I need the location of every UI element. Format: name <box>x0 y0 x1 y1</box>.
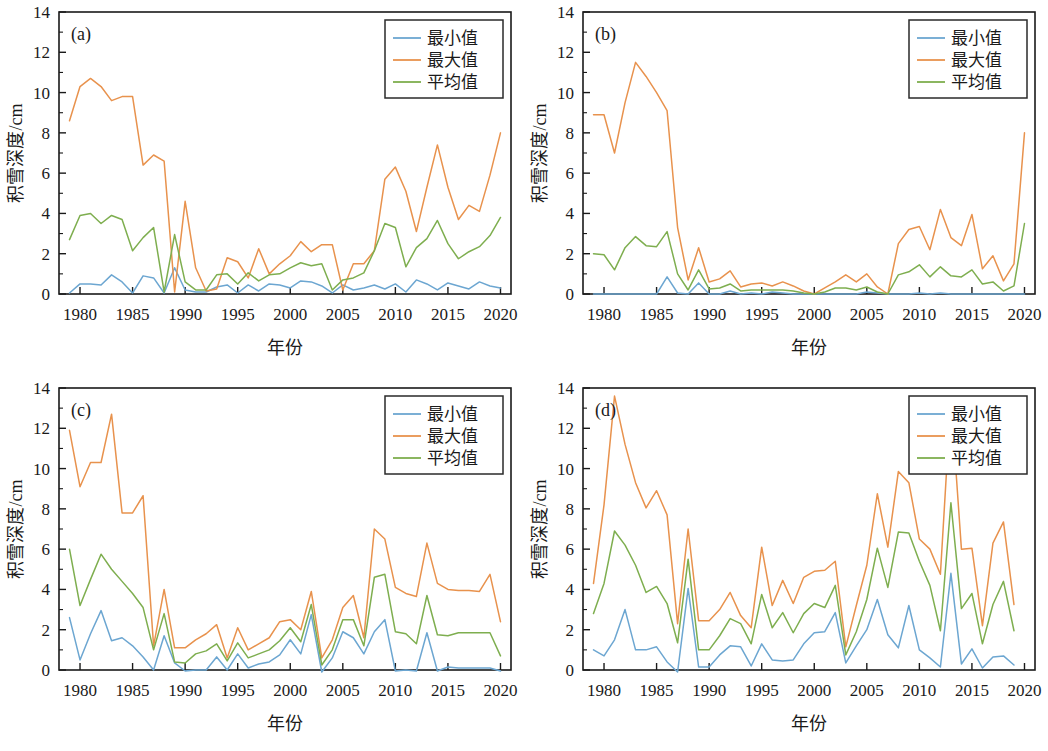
y-tick-label: 10 <box>557 460 574 479</box>
x-tick-label: 2015 <box>431 305 465 324</box>
x-tick-label: 2000 <box>797 681 831 700</box>
x-tick-label: 2015 <box>955 305 989 324</box>
panel-tag: (d) <box>595 400 616 421</box>
y-tick-label: 6 <box>566 540 575 559</box>
y-tick-label: 14 <box>557 3 575 22</box>
y-tick-label: 8 <box>42 124 51 143</box>
y-axis-title: 积雪深度/cm <box>6 104 26 203</box>
y-tick-label: 6 <box>42 540 51 559</box>
x-tick-label: 2000 <box>273 305 307 324</box>
y-tick-label: 2 <box>42 621 51 640</box>
x-tick-label: 2020 <box>483 305 517 324</box>
x-tick-label: 2015 <box>431 681 465 700</box>
x-tick-label: 2010 <box>902 305 936 324</box>
y-tick-label: 0 <box>566 285 575 304</box>
y-tick-label: 12 <box>33 43 50 62</box>
panel-c: 0246810121419801985199019952000200520102… <box>0 376 524 751</box>
legend-label-最小值: 最小值 <box>951 29 1002 48</box>
y-tick-label: 10 <box>33 460 50 479</box>
x-tick-label: 1985 <box>116 305 150 324</box>
y-axis-title: 积雪深度/cm <box>530 104 550 203</box>
x-tick-label: 2005 <box>850 681 884 700</box>
y-tick-label: 10 <box>33 84 50 103</box>
legend-label-最大值: 最大值 <box>951 51 1002 70</box>
y-tick-label: 0 <box>566 661 575 680</box>
y-tick-label: 0 <box>42 285 51 304</box>
y-tick-label: 2 <box>566 621 575 640</box>
panel-tag: (c) <box>71 400 91 421</box>
legend-label-平均值: 平均值 <box>951 73 1002 92</box>
panel-tag: (b) <box>595 24 616 45</box>
legend-label-最大值: 最大值 <box>427 51 478 70</box>
y-tick-label: 0 <box>42 661 51 680</box>
x-tick-label: 2015 <box>955 681 989 700</box>
x-tick-label: 1985 <box>116 681 150 700</box>
x-axis-title: 年份 <box>791 714 827 734</box>
x-tick-label: 2020 <box>1007 681 1041 700</box>
legend-label-平均值: 平均值 <box>427 73 478 92</box>
y-tick-label: 2 <box>42 245 51 264</box>
x-axis-title: 年份 <box>267 714 303 734</box>
chart-a: 0246810121419801985199019952000200520102… <box>0 0 524 375</box>
legend-label-平均值: 平均值 <box>951 449 1002 468</box>
legend-label-最小值: 最小值 <box>427 405 478 424</box>
y-tick-label: 4 <box>566 204 575 223</box>
x-axis-title: 年份 <box>267 338 303 358</box>
y-tick-label: 8 <box>566 124 575 143</box>
x-tick-label: 1980 <box>587 681 621 700</box>
y-tick-label: 4 <box>42 204 51 223</box>
x-tick-label: 1980 <box>63 305 97 324</box>
legend-label-最大值: 最大值 <box>951 427 1002 446</box>
y-axis-title: 积雪深度/cm <box>530 480 550 579</box>
x-tick-label: 2005 <box>850 305 884 324</box>
y-tick-label: 14 <box>557 379 575 398</box>
x-tick-label: 1980 <box>587 305 621 324</box>
x-tick-label: 1985 <box>640 305 674 324</box>
y-tick-label: 10 <box>557 84 574 103</box>
legend-label-最小值: 最小值 <box>951 405 1002 424</box>
x-tick-label: 1980 <box>63 681 97 700</box>
legend-label-最小值: 最小值 <box>427 29 478 48</box>
y-tick-label: 4 <box>566 580 575 599</box>
y-tick-label: 14 <box>33 3 51 22</box>
y-tick-label: 14 <box>33 379 51 398</box>
x-tick-label: 2000 <box>273 681 307 700</box>
panel-d: 0246810121419801985199019952000200520102… <box>524 376 1048 751</box>
x-tick-label: 1990 <box>168 681 202 700</box>
chart-c: 0246810121419801985199019952000200520102… <box>0 376 524 751</box>
x-axis-title: 年份 <box>791 338 827 358</box>
x-tick-label: 1990 <box>692 681 726 700</box>
y-tick-label: 8 <box>42 500 51 519</box>
y-tick-label: 12 <box>557 43 574 62</box>
y-tick-label: 2 <box>566 245 575 264</box>
chart-d: 0246810121419801985199019952000200520102… <box>524 376 1048 751</box>
legend-label-最大值: 最大值 <box>427 427 478 446</box>
y-tick-label: 12 <box>33 419 50 438</box>
x-tick-label: 2020 <box>1007 305 1041 324</box>
y-tick-label: 6 <box>42 164 51 183</box>
x-tick-label: 1995 <box>745 681 779 700</box>
y-tick-label: 4 <box>42 580 51 599</box>
x-tick-label: 2010 <box>902 681 936 700</box>
y-axis-title: 积雪深度/cm <box>6 480 26 579</box>
x-tick-label: 1990 <box>168 305 202 324</box>
legend-label-平均值: 平均值 <box>427 449 478 468</box>
x-tick-label: 1995 <box>221 305 255 324</box>
x-tick-label: 2000 <box>797 305 831 324</box>
x-tick-label: 2005 <box>326 681 360 700</box>
x-tick-label: 1995 <box>221 681 255 700</box>
y-tick-label: 6 <box>566 164 575 183</box>
y-tick-label: 12 <box>557 419 574 438</box>
x-tick-label: 2010 <box>378 681 412 700</box>
x-tick-label: 1995 <box>745 305 779 324</box>
panel-b: 0246810121419801985199019952000200520102… <box>524 0 1048 375</box>
x-tick-label: 2020 <box>483 681 517 700</box>
x-tick-label: 1990 <box>692 305 726 324</box>
x-tick-label: 2005 <box>326 305 360 324</box>
figure-snow-depth-timeseries: 0246810121419801985199019952000200520102… <box>0 0 1048 751</box>
panel-a: 0246810121419801985199019952000200520102… <box>0 0 524 375</box>
y-tick-label: 8 <box>566 500 575 519</box>
x-tick-label: 2010 <box>378 305 412 324</box>
chart-b: 0246810121419801985199019952000200520102… <box>524 0 1048 375</box>
x-tick-label: 1985 <box>640 681 674 700</box>
